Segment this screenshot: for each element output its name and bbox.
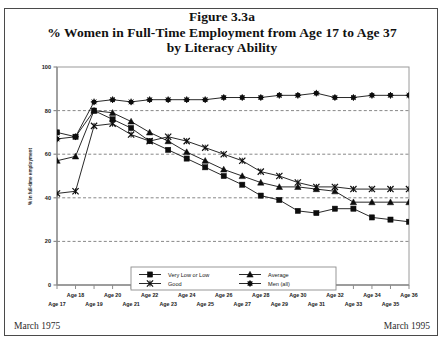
data-point-filled-square <box>406 219 411 224</box>
legend-entry-very-low-or-low: Very Low or Low <box>139 272 210 278</box>
x-tick-label: Age 26 <box>215 292 232 298</box>
chart-container: 020406080100 % in full-time employment A… <box>0 0 444 344</box>
data-point-filled-square <box>258 193 263 198</box>
data-point-filled-square <box>54 130 59 135</box>
data-point-filled-square <box>240 182 245 187</box>
data-point-filled-circle <box>239 94 246 101</box>
x-tick-label: Age 23 <box>159 301 176 307</box>
data-point-filled-square <box>221 173 226 178</box>
y-tick-label: 60 <box>45 151 51 157</box>
x-tick-label: Age 30 <box>289 292 306 298</box>
x-tick-label: Age 35 <box>382 301 399 307</box>
data-point-filled-circle <box>128 99 135 106</box>
y-tick-label: 100 <box>42 64 51 70</box>
legend-label: Men (all) <box>268 281 290 287</box>
x-tick-label: Age 25 <box>197 301 214 307</box>
data-point-filled-circle <box>332 94 339 101</box>
data-point-filled-circle <box>72 133 79 140</box>
x-tick-label: Age 33 <box>345 301 362 307</box>
data-point-filled-circle <box>369 92 376 99</box>
x-tick-label: Age 36 <box>400 292 417 298</box>
x-tick-label: Age 20 <box>104 292 121 298</box>
x-tick-label: Age 24 <box>178 292 195 298</box>
x-tick-label: Age 21 <box>122 301 139 307</box>
data-point-filled-square <box>351 206 356 211</box>
x-tick-label: Age 32 <box>326 292 343 298</box>
line-chart: 020406080100 % in full-time employment A… <box>0 0 444 344</box>
data-point-filled-circle <box>202 96 209 103</box>
data-point-filled-square <box>314 210 319 215</box>
data-point-filled-square <box>147 272 152 277</box>
data-point-filled-circle <box>109 96 116 103</box>
data-point-filled-square <box>295 208 300 213</box>
data-point-filled-circle <box>406 92 413 99</box>
data-point-filled-circle <box>91 99 98 106</box>
data-point-filled-circle <box>350 94 357 101</box>
x-tick-label: Age 18 <box>67 292 84 298</box>
data-point-filled-circle <box>257 94 264 101</box>
data-point-filled-circle <box>165 96 172 103</box>
data-point-filled-square <box>184 156 189 161</box>
x-tick-label: Age 19 <box>85 301 102 307</box>
footer-start-date: March 1975 <box>14 321 60 331</box>
data-point-filled-circle <box>146 96 153 103</box>
data-point-filled-circle <box>247 280 254 287</box>
x-tick-label: Age 28 <box>252 292 269 298</box>
x-tick-label: Age 29 <box>271 301 288 307</box>
x-tick-labels: Age 17Age 18Age 19Age 20Age 21Age 22Age … <box>48 292 417 307</box>
data-point-filled-square <box>388 217 393 222</box>
data-point-filled-square <box>203 165 208 170</box>
data-point-filled-circle <box>313 90 320 97</box>
figure-page: Figure 3.3a % Women in Full-Time Employm… <box>0 0 444 344</box>
data-point-filled-circle <box>220 94 227 101</box>
x-tick-label: Age 27 <box>234 301 251 307</box>
data-point-filled-square <box>129 125 134 130</box>
y-tick-label: 20 <box>45 238 51 244</box>
data-point-filled-circle <box>387 92 394 99</box>
data-point-filled-square <box>332 206 337 211</box>
data-point-filled-circle <box>295 92 302 99</box>
footer-end-date: March 1995 <box>384 321 430 331</box>
data-point-filled-square <box>166 147 171 152</box>
y-tick-label: 40 <box>45 195 51 201</box>
y-axis-title: % in full-time employment <box>28 148 33 205</box>
data-point-filled-circle <box>276 92 283 99</box>
x-tick-label: Age 17 <box>48 301 65 307</box>
legend-label: Average <box>268 272 289 278</box>
x-tick-label: Age 22 <box>141 292 158 298</box>
data-point-filled-square <box>277 197 282 202</box>
y-tick-labels: 020406080100 <box>42 64 51 288</box>
y-tick-label: 80 <box>45 108 51 114</box>
legend-label: Very Low or Low <box>168 272 210 278</box>
legend-box <box>131 267 336 290</box>
x-tick-label: Age 31 <box>308 301 325 307</box>
y-tick-label: 0 <box>48 282 51 288</box>
chart-legend: Very Low or LowAverageGoodMen (all) <box>131 267 336 290</box>
data-point-filled-circle <box>54 136 61 143</box>
data-point-filled-circle <box>183 96 190 103</box>
legend-label: Good <box>168 281 182 287</box>
data-point-filled-square <box>369 215 374 220</box>
x-tick-label: Age 34 <box>363 292 380 298</box>
